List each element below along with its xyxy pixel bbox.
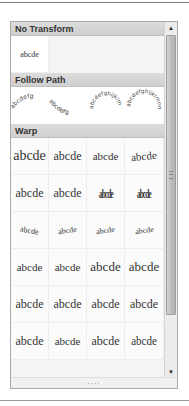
vertical-scrollbar[interactable]: ▲ ▼ [164,22,177,378]
warp-option[interactable]: abcde [49,175,87,212]
warp-sample: abcde [16,297,44,312]
section-header-follow-path: Follow Path [11,73,164,87]
arrow-up-icon: ▲ [168,25,174,31]
warp-sample: abcde [92,334,120,349]
warp-sample: abcde [54,186,82,201]
warp-sample: abcde [20,224,40,236]
gallery-content: No Transform abcde Follow Path abcdefg a… [11,22,164,378]
follow-path-row: abcdefg abcdefg abcdefghijklm abcdefghij… [11,87,164,124]
warp-grid: abcde abcde abcde abcde abcde abcde abcd… [11,138,164,378]
circle-text: abcdefghijklm [88,90,124,109]
warp-option[interactable]: abcde [87,212,125,249]
arch-down-path-icon: abcdefg [49,87,87,124]
warp-option[interactable]: abcde [87,175,125,212]
svg-text:abcdefghijklmno: abcdefghijklmno [125,88,163,110]
warp-sample: abcde [130,297,158,312]
warp-sample: abcde [99,185,113,200]
arch-down-text: abcdefg [49,97,69,116]
warp-sample: abcde [129,259,159,275]
warp-option[interactable]: abcde [49,323,87,360]
warp-option[interactable]: abcde [49,212,87,249]
warp-option[interactable]: abcde [49,249,87,286]
no-transform-row: abcde [11,36,164,73]
arrow-down-icon: ▼ [168,369,174,375]
warp-option[interactable]: abcde [11,175,49,212]
warp-option[interactable]: abcde [87,286,125,323]
warp-sample: abcde [54,149,82,164]
warp-sample: abcde [13,148,46,164]
warp-option[interactable]: abcde [125,138,164,175]
bottom-divider [0,400,189,401]
warp-sample: abcde [58,224,78,236]
no-transform-option[interactable]: abcde [11,36,49,73]
warp-option[interactable]: abcde [125,249,164,286]
warp-option[interactable]: abcde [11,286,49,323]
warp-option[interactable]: abcde [11,212,49,249]
arch-up-path-icon: abcdefg [11,87,49,124]
top-divider [0,2,189,3]
text-effect-gallery: No Transform abcde Follow Path abcdefg a… [10,21,178,389]
warp-sample: abcde [54,297,82,312]
warp-sample: abcde [131,334,157,347]
warp-sample: abcde [16,186,44,201]
warp-option[interactable]: abcde [125,212,164,249]
warp-option[interactable]: abcde [49,138,87,175]
warp-sample: abcde [96,224,116,236]
resize-grip[interactable]: ···· [11,377,177,388]
warp-sample: abcde [131,149,158,164]
section-header-no-transform: No Transform [11,22,164,36]
warp-option[interactable]: abcde [11,138,49,175]
warp-option[interactable]: abcde [49,286,87,323]
warp-option[interactable]: abcde [125,175,164,212]
warp-sample: abcde [92,297,120,312]
warp-option[interactable]: abcde [125,286,164,323]
button-text: abcdefghijklmno [125,88,163,110]
warp-sample: abcde [137,185,151,200]
follow-path-arch-up[interactable]: abcdefg [11,87,49,124]
follow-path-arch-down[interactable]: abcdefg [49,87,87,124]
warp-option[interactable]: abcde [11,323,49,360]
warp-sample: abcde [55,261,81,273]
svg-text:abcdefg: abcdefg [49,97,69,116]
grip-dots-icon: ···· [87,380,100,387]
scroll-up-button[interactable]: ▲ [165,22,177,34]
warp-sample: abcde [134,224,154,236]
grip-icon [169,171,173,179]
section-header-warp: Warp [11,124,164,138]
warp-option[interactable]: abcde [87,323,125,360]
scroll-thumb[interactable] [166,35,176,315]
arch-up-text: abcdefg [11,92,34,110]
warp-sample: abcde [90,259,120,275]
follow-path-button[interactable]: abcdefghijklmno [125,87,164,124]
warp-sample: abcde [17,261,43,273]
svg-text:abcdefghijklm: abcdefghijklm [88,90,124,109]
warp-sample: abcde [55,335,81,347]
warp-option[interactable]: abcde [125,323,164,360]
circle-path-icon: abcdefghijklm [87,87,125,124]
warp-sample: abcde [93,150,119,162]
warp-option[interactable]: abcde [11,249,49,286]
warp-option[interactable]: abcde [87,138,125,175]
button-path-icon: abcdefghijklmno [125,87,164,124]
follow-path-circle[interactable]: abcdefghijklm [87,87,125,124]
warp-sample: abcde [16,334,44,349]
svg-text:abcdefg: abcdefg [11,92,34,110]
warp-option[interactable]: abcde [87,249,125,286]
